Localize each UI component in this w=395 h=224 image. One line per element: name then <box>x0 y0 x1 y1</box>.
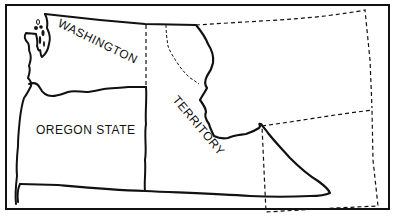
interior-dashed-border <box>166 25 199 84</box>
washington-oregon-border <box>29 83 146 96</box>
oregon-east-border <box>145 87 147 191</box>
washington-label: WASHINGTON <box>56 16 140 67</box>
eastern-dashed-boundary-north <box>196 10 372 108</box>
oregon-south-border <box>18 184 20 202</box>
oregon-label: OREGON STATE <box>36 123 136 137</box>
territory-label: TERRITORY <box>170 93 228 158</box>
territory-map: WASHINGTON OREGON STATE TERRITORY <box>0 0 395 224</box>
map-frame <box>6 5 389 209</box>
